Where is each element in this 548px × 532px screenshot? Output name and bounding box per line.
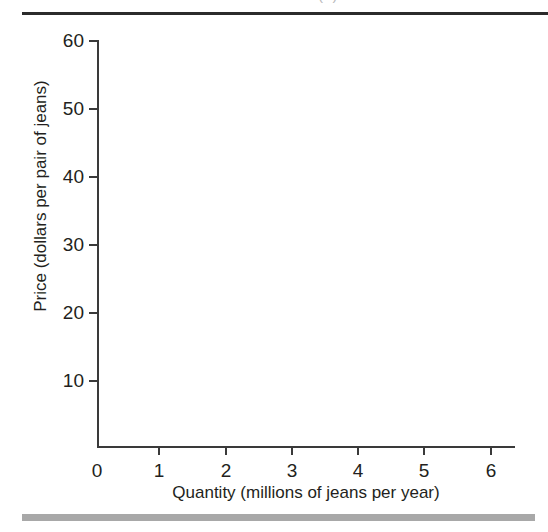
x-axis-tick <box>490 447 492 455</box>
y-axis-line <box>97 40 99 448</box>
x-axis-tick <box>225 447 227 455</box>
y-axis-tick <box>89 312 97 314</box>
x-axis-tick-label: 6 <box>471 461 511 480</box>
y-axis-tick <box>89 40 97 42</box>
x-axis-title: Quantity (millions of jeans per year) <box>97 483 515 503</box>
y-axis-title: Price (dollars per pair of jeans) <box>31 51 51 341</box>
x-axis-tick-label: 1 <box>139 461 179 480</box>
y-axis-tick <box>89 244 97 246</box>
figure-root: (a) 60 50 40 30 20 10 <box>0 0 548 532</box>
x-axis-tick-label: 0 <box>77 461 117 480</box>
bottom-divider-rule <box>22 514 535 521</box>
x-axis-tick <box>423 447 425 455</box>
x-axis-line <box>97 446 515 448</box>
x-axis-tick-label: 2 <box>206 461 246 480</box>
y-axis-tick <box>89 380 97 382</box>
y-axis-tick-label: 60 <box>40 31 84 50</box>
y-axis-tick-label: 10 <box>40 371 84 390</box>
x-axis-tick-label: 3 <box>272 461 312 480</box>
plot-area <box>97 40 515 447</box>
x-axis-tick <box>158 447 160 455</box>
x-axis-tick <box>291 447 293 455</box>
chart-figure: 60 50 40 30 20 10 0 1 2 3 4 5 6 Price (d <box>0 0 548 532</box>
y-axis-tick <box>89 176 97 178</box>
y-axis-tick <box>89 108 97 110</box>
x-axis-tick-label: 4 <box>338 461 378 480</box>
x-axis-tick-label: 5 <box>404 461 444 480</box>
x-axis-tick <box>357 447 359 455</box>
